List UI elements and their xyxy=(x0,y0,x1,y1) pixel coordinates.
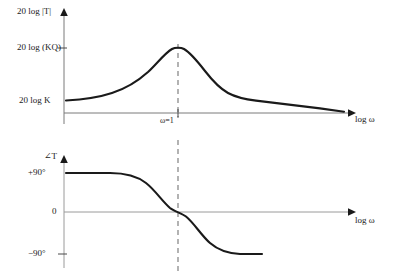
phase-plot-group xyxy=(58,140,356,272)
magnitude-plot-group xyxy=(58,8,356,124)
phase-x-axis-label: log ω xyxy=(355,216,375,225)
magnitude-y-axis-label: 20 log |T| xyxy=(17,7,51,16)
magnitude-y-axis-arrowhead xyxy=(60,8,68,16)
magnitude-ytick-label-kq: 20 log (KQ) xyxy=(17,43,61,52)
phase-response-curve xyxy=(66,173,262,254)
phase-ytick-label-plus90: +90° xyxy=(28,168,46,177)
magnitude-x-axis-label: log ω xyxy=(355,115,375,124)
resonance-tick-label: ω=1 xyxy=(160,117,174,125)
magnitude-response-curve xyxy=(66,48,344,112)
phase-ytick-label-zero: 0 xyxy=(52,207,57,216)
phase-y-axis-label: ∠T xyxy=(44,152,57,161)
magnitude-ytick-label-k: 20 log K xyxy=(19,96,51,105)
phase-ytick-label-minus90: −90° xyxy=(28,249,46,258)
phase-y-axis-arrowhead xyxy=(60,155,68,163)
bode-plot-figure: 20 log |T| 20 log (KQ) 20 log K log ω ω=… xyxy=(0,0,394,279)
